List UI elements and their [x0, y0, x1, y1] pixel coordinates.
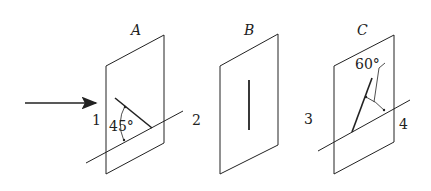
panel-c-angle-arc — [366, 97, 385, 111]
panel-b-label: B — [243, 22, 254, 38]
panel-c-side-4: 4 — [399, 116, 408, 132]
panel-b: B — [220, 22, 278, 174]
panel-c-reference-line — [318, 100, 410, 151]
panel-c-angle-label: 60° — [355, 56, 380, 72]
panel-a-label: A — [129, 22, 141, 38]
panel-a-side-1: 1 — [92, 112, 101, 128]
panel-c-axis-line — [352, 78, 372, 132]
panel-a: A 1 2 45° — [86, 22, 201, 174]
panel-a-side-2: 2 — [192, 112, 201, 128]
panel-a-plate — [106, 35, 164, 174]
polarizer-diagram: A 1 2 45° B C 3 4 60° — [0, 0, 431, 191]
panel-c: C 3 4 60° — [304, 22, 410, 174]
panel-c-label: C — [357, 22, 368, 38]
panel-c-side-3: 3 — [304, 111, 313, 127]
panel-a-angle-label: 45° — [109, 118, 134, 134]
